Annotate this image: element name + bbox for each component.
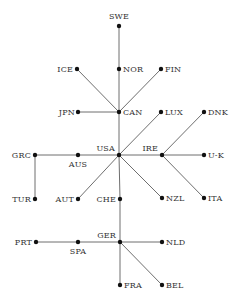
- node-jpn: [76, 110, 80, 114]
- node-label-prt: PRT: [15, 238, 33, 247]
- edge-ice-can: [77, 69, 119, 112]
- node-label-ita: ITA: [208, 194, 222, 203]
- node-dnk: [202, 110, 206, 114]
- edge-ger-bel: [120, 242, 162, 285]
- node-label-fra: FRA: [124, 281, 142, 290]
- node-grc: [33, 153, 37, 157]
- node-lux: [159, 110, 163, 114]
- node-usa: [117, 153, 121, 157]
- node-label-lux: LUX: [165, 108, 183, 117]
- node-nzl: [160, 196, 164, 200]
- node-label-nzl: NZL: [166, 194, 185, 203]
- node-label-can: CAN: [123, 108, 143, 117]
- node-label-ice: ICE: [57, 65, 73, 74]
- node-nor: [117, 67, 121, 71]
- node-fra: [118, 283, 122, 287]
- node-label-usa: USA: [96, 144, 115, 153]
- node-ire: [160, 153, 164, 157]
- node-can: [117, 110, 121, 114]
- node-label-aut: AUT: [55, 195, 75, 204]
- edge-fin-can: [119, 69, 161, 112]
- node-prt: [34, 240, 38, 244]
- node-bel: [160, 283, 164, 287]
- node-tur: [33, 197, 37, 201]
- node-label-tur: TUR: [12, 195, 31, 204]
- node-ger: [118, 240, 122, 244]
- node-label-che: CHE: [96, 195, 116, 204]
- node-label-swe: SWE: [109, 12, 129, 21]
- node-ita: [202, 196, 206, 200]
- node-fin: [159, 67, 163, 71]
- edge-dnk-ire: [162, 112, 204, 155]
- node-ice: [75, 67, 79, 71]
- node-label-dnk: DNK: [208, 108, 229, 117]
- node-aut: [76, 197, 80, 201]
- edge-usa-che: [119, 155, 120, 199]
- node-label-jpn: JPN: [58, 108, 75, 117]
- edge-ire-ita: [162, 155, 204, 198]
- node-label-bel: BEL: [166, 281, 184, 290]
- node-che: [118, 197, 122, 201]
- node-label-ger: GER: [97, 231, 117, 240]
- node-label-nor: NOR: [123, 65, 144, 74]
- node-label-fin: FIN: [165, 65, 181, 74]
- edge-usa-nzl: [119, 155, 162, 198]
- node-label-spa: SPA: [70, 247, 87, 256]
- node-label-ire: IRE: [142, 144, 158, 153]
- node-label-nld: NLD: [166, 238, 185, 247]
- node-label-u-k: U-K: [208, 151, 225, 160]
- node-label-aus: AUS: [68, 160, 88, 169]
- node-aus: [76, 153, 80, 157]
- node-spa: [76, 240, 80, 244]
- node-label-grc: GRC: [12, 151, 31, 160]
- node-swe: [117, 24, 121, 28]
- node-nld: [160, 240, 164, 244]
- country-tree-diagram: SWENORICEFINJPNCANLUXDNKGRCAUSUSAIREU-KT…: [0, 0, 238, 300]
- node-u-k: [202, 153, 206, 157]
